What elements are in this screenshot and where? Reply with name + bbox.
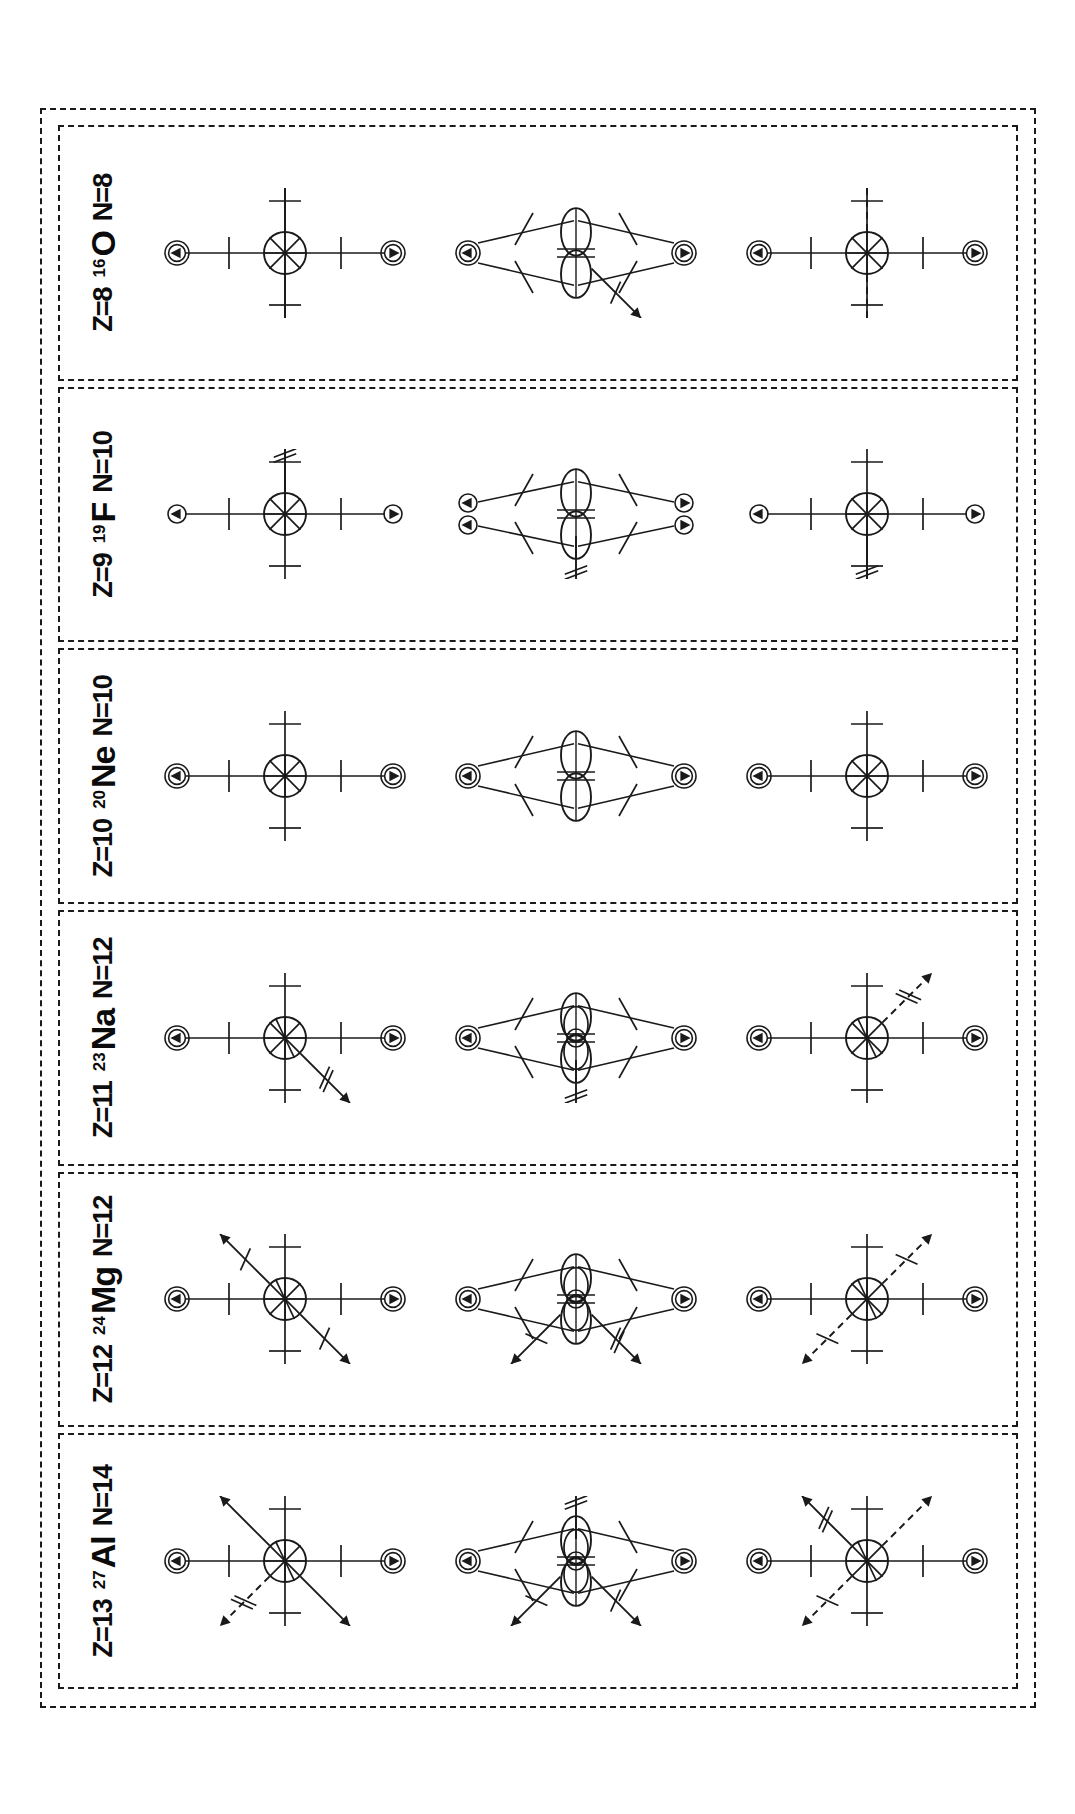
mass-number-label: 19 — [88, 524, 107, 543]
diagram-stack — [140, 389, 1012, 641]
diagram-stack — [140, 912, 1012, 1164]
nuclide-symbol: 23Na — [88, 1009, 117, 1071]
nuclide-panel-na-23: Z=1123NaN=12 — [58, 910, 1018, 1166]
neutron-number-label: N=10 — [87, 431, 118, 492]
nucleus-diagram-mg-24-row-top — [140, 1174, 431, 1426]
nuclide-panel-row: Z=1327AlN=14Z=1224MgN=12Z=1123NaN=12Z=10… — [58, 122, 1018, 1692]
panel-header: Z=919FN=10 — [66, 389, 140, 641]
nucleus-diagram-na-23-row-top — [140, 912, 431, 1164]
nuclide-panel-al-27: Z=1327AlN=14 — [58, 1433, 1018, 1689]
nuclide-panel-o-16: Z=816ON=8 — [58, 125, 1018, 381]
neutron-number-label: N=12 — [87, 938, 118, 999]
nuclide-symbol: 19F — [88, 503, 117, 544]
proton-number-label: Z=13 — [87, 1599, 118, 1657]
proton-number-label: Z=11 — [87, 1081, 118, 1138]
neutron-number-label: N=12 — [87, 1196, 118, 1257]
nucleus-diagram-na-23-row-middle — [430, 912, 721, 1164]
nuclide-panel-mg-24: Z=1224MgN=12 — [58, 1172, 1018, 1428]
nucleus-diagram-al-27-row-middle — [430, 1435, 721, 1687]
nuclide-panel-ne-20: Z=1020NeN=10 — [58, 648, 1018, 904]
panel-header: Z=1224MgN=12 — [66, 1174, 140, 1426]
proton-number-label: Z=12 — [87, 1345, 118, 1403]
nuclide-symbol: 20Ne — [88, 746, 117, 808]
panel-header: Z=1327AlN=14 — [66, 1435, 140, 1687]
element-symbol-label: Mg — [88, 1267, 117, 1314]
nuclide-symbol: 16O — [88, 231, 117, 277]
diagram-stack — [140, 1435, 1012, 1687]
mass-number-label: 16 — [88, 259, 107, 278]
panel-header: Z=1123NaN=12 — [66, 912, 140, 1164]
nuclide-panel-f-19: Z=919FN=10 — [58, 387, 1018, 643]
panel-header: Z=816ON=8 — [66, 127, 140, 379]
element-symbol-label: Ne — [88, 746, 117, 787]
nucleus-diagram-f-19-row-middle — [430, 389, 721, 641]
diagram-stack — [140, 650, 1012, 902]
proton-number-label: Z=8 — [87, 288, 118, 332]
figure-root: Z=1327AlN=14Z=1224MgN=12Z=1123NaN=12Z=10… — [0, 0, 1075, 1814]
nucleus-diagram-mg-24-row-middle — [430, 1174, 721, 1426]
diagram-stack — [140, 127, 1012, 379]
nucleus-diagram-al-27-row-bottom — [721, 1435, 1012, 1687]
nucleus-diagram-al-27-row-top — [140, 1435, 431, 1687]
rotated-figure-stage: Z=1327AlN=14Z=1224MgN=12Z=1123NaN=12Z=10… — [28, 96, 1048, 1718]
mass-number-label: 24 — [88, 1316, 107, 1335]
neutron-number-label: N=10 — [87, 675, 118, 736]
nucleus-diagram-mg-24-row-bottom — [721, 1174, 1012, 1426]
nucleus-diagram-ne-20-row-middle — [430, 650, 721, 902]
nucleus-diagram-o-16-row-top — [140, 127, 431, 379]
nuclide-symbol: 24Mg — [88, 1267, 117, 1335]
mass-number-label: 20 — [88, 790, 107, 809]
element-symbol-label: F — [88, 503, 117, 523]
nucleus-diagram-ne-20-row-bottom — [721, 650, 1012, 902]
mass-number-label: 27 — [88, 1570, 107, 1589]
proton-number-label: Z=9 — [87, 553, 118, 597]
element-symbol-label: Al — [88, 1536, 117, 1568]
diagram-stack — [140, 1174, 1012, 1426]
element-symbol-label: Na — [88, 1009, 117, 1050]
mass-number-label: 23 — [88, 1052, 107, 1071]
nucleus-diagram-ne-20-row-top — [140, 650, 431, 902]
nucleus-diagram-na-23-row-bottom — [721, 912, 1012, 1164]
element-symbol-label: O — [88, 231, 117, 256]
neutron-number-label: N=14 — [87, 1465, 118, 1526]
nucleus-diagram-f-19-row-top — [140, 389, 431, 641]
proton-number-label: Z=10 — [87, 819, 118, 877]
nuclide-symbol: 27Al — [88, 1536, 117, 1589]
nucleus-diagram-o-16-row-middle — [430, 127, 721, 379]
nucleus-diagram-f-19-row-bottom — [721, 389, 1012, 641]
neutron-number-label: N=8 — [87, 174, 118, 221]
panel-header: Z=1020NeN=10 — [66, 650, 140, 902]
nucleus-diagram-o-16-row-bottom — [721, 127, 1012, 379]
